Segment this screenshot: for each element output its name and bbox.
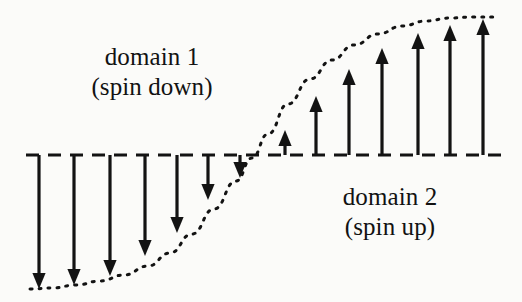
spin-up-arrow-head — [309, 96, 322, 112]
spin-down-arrow-group — [32, 155, 246, 289]
domain-1-subtitle: (spin down) — [46, 72, 258, 102]
spin-up-arrow-head — [342, 69, 355, 85]
domain-2-label: domain 2 (spin up) — [292, 182, 488, 241]
spin-down-arrow-head — [67, 269, 80, 285]
spin-up-arrow-head — [375, 48, 388, 64]
domain-2-title: domain 2 — [292, 182, 488, 212]
spin-down-arrow-head — [201, 184, 214, 200]
spin-up-arrow-head — [443, 25, 456, 41]
domain-1-title: domain 1 — [46, 42, 258, 72]
spin-down-arrow-head — [170, 217, 183, 233]
spin-down-arrow-head — [138, 240, 151, 256]
spin-up-arrow-head — [476, 19, 489, 35]
domain-wall-figure: domain 1 (spin down) domain 2 (spin up) — [0, 0, 522, 302]
spin-up-arrow-head — [278, 130, 291, 146]
domain-2-subtitle: (spin up) — [292, 212, 488, 242]
spin-up-arrow-group — [278, 19, 489, 155]
spin-down-arrow-head — [32, 273, 45, 289]
spin-up-arrow-head — [411, 33, 424, 49]
domain-1-label: domain 1 (spin down) — [46, 42, 258, 101]
spin-down-arrow-head — [103, 260, 116, 276]
spin-down-arrow-head — [233, 162, 246, 178]
